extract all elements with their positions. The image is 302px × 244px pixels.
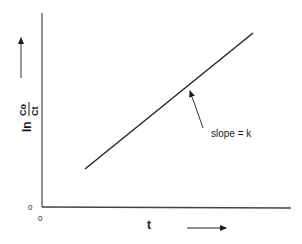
y-axis-label: ln Co Ct	[18, 102, 40, 132]
y-label-denominator: Ct	[30, 107, 40, 117]
linear-fit-line	[85, 33, 253, 169]
y-origin-label: 0	[28, 203, 33, 212]
kinetics-diagram: ln Co Ct 0 0 t slope = k	[0, 0, 302, 244]
x-axis-label: t	[147, 218, 151, 232]
slope-annotation: slope = k	[211, 128, 252, 139]
y-label-ln: ln	[20, 121, 34, 132]
y-label-numerator: Co	[18, 104, 28, 116]
x-axis	[42, 207, 291, 208]
slope-pointer-arrow	[190, 91, 203, 128]
x-origin-label: 0	[38, 214, 43, 223]
